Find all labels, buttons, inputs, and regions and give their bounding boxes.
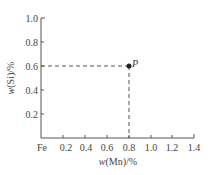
x-tick-label: 0.8 [123,142,136,153]
y-tick-label: 0.8 [26,37,39,48]
x-axis-title: w(Mn)/% [99,156,137,168]
x-tick-label: Fe [37,142,48,153]
x-tick-label: 1.4 [188,142,201,153]
y-tick-label: 0.2 [26,109,39,120]
y-tick-label: 0.4 [26,85,39,96]
y-axis-title: w(Si)/% [5,62,17,95]
x-tick-label: 1.0 [145,142,158,153]
x-tick-label: 0.6 [101,142,114,153]
x-tick-label: 0.2 [60,142,73,153]
x-tick-label: 1.2 [166,142,179,153]
x-tick-label: 0.4 [80,142,93,153]
y-tick-label: 1.0 [26,13,39,24]
point-label: P [131,58,138,69]
chart: 1.0 0.8 0.6 0.4 0.2 Fe 0.2 0.4 0.6 0.8 1… [0,0,213,175]
point-p [127,64,132,69]
y-tick-label: 0.6 [26,61,39,72]
